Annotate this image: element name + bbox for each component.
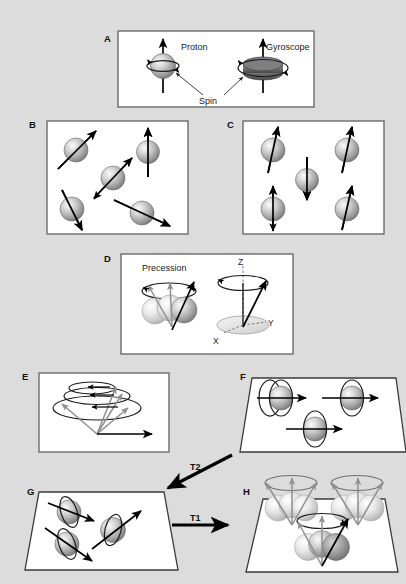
panel-e: E xyxy=(22,371,169,452)
panel-d-precession-text: Precession xyxy=(142,263,187,273)
proton-sphere xyxy=(151,54,176,79)
figure-root: A Proton Gyroscope Spin B xyxy=(0,0,406,584)
t2-label: T2 xyxy=(190,462,201,472)
axis-label-x: X xyxy=(213,336,219,346)
panel-a-label: A xyxy=(104,33,111,44)
panel-c: C xyxy=(227,119,384,234)
axis-label-z: Z xyxy=(238,257,243,267)
panel-a: A Proton Gyroscope Spin xyxy=(104,31,314,107)
panel-h-label: H xyxy=(243,486,250,497)
panel-a-gyroscope-text: Gyroscope xyxy=(266,42,310,52)
panel-b: B xyxy=(29,119,188,234)
panel-g-label: G xyxy=(27,486,34,497)
panel-c-label: C xyxy=(227,119,234,130)
precession-sphere-main xyxy=(171,297,197,323)
panel-d: D Precession Z Y X xyxy=(104,253,293,354)
panel-f-label: F xyxy=(240,371,246,382)
panel-b-label: B xyxy=(29,119,36,130)
panel-g: G xyxy=(25,486,178,570)
panel-d-label: D xyxy=(104,253,111,264)
mri-physics-figure: A Proton Gyroscope Spin B xyxy=(0,0,406,584)
panel-e-box xyxy=(39,373,169,452)
t1-label: T1 xyxy=(190,513,201,523)
panel-a-proton-text: Proton xyxy=(181,42,208,52)
panel-f: F xyxy=(240,371,406,452)
panel-a-spin-text: Spin xyxy=(199,96,217,106)
axis-label-y: Y xyxy=(268,318,274,328)
panel-e-label: E xyxy=(22,371,28,382)
